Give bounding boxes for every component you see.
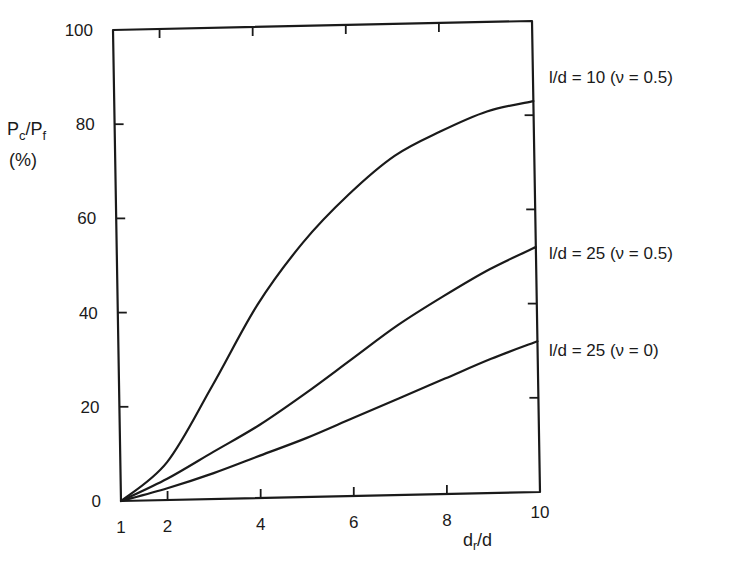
x-tick-label: 4 (256, 515, 265, 534)
series-label-ld25-nu0: l/d = 25 (ν = 0) (549, 341, 659, 360)
line-chart: 020406080100 1246810 Pc/Pf (%) dr/d l/d … (0, 0, 733, 579)
x-tick-label: 2 (163, 517, 172, 536)
curve-ld10-nu05 (121, 101, 533, 501)
curve-ld25-nu05 (121, 247, 536, 501)
y-tick-label: 40 (79, 304, 98, 323)
y-tick-label: 80 (76, 115, 95, 134)
data-curves (121, 101, 537, 501)
y-tick-label: 100 (65, 21, 93, 40)
series-label-ld25-nu05: l/d = 25 (ν = 0.5) (549, 244, 673, 263)
series-label-ld10-nu05: l/d = 10 (ν = 0.5) (549, 68, 673, 87)
x-tick-label: 10 (531, 503, 550, 522)
y-axis-label: Pc/Pf (7, 119, 47, 143)
y-tick-labels: 020406080100 (65, 21, 101, 511)
y-tick-label: 20 (80, 398, 99, 417)
y-tick-label: 60 (77, 209, 96, 228)
x-tick-label: 8 (442, 511, 451, 530)
x-tick-label: 1 (116, 518, 125, 537)
y-tick-label: 0 (92, 492, 101, 511)
x-tick-label: 6 (349, 513, 358, 532)
x-axis-label: dr/d (463, 530, 492, 553)
curve-ld25-nu0 (121, 341, 537, 501)
y-axis-unit: (%) (9, 150, 37, 170)
